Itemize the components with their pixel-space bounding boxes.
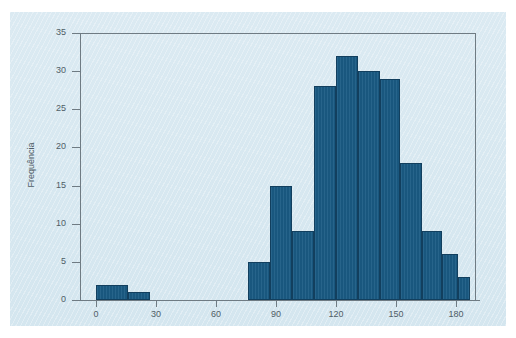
histogram-bar	[458, 277, 470, 300]
y-tick-label: 5	[26, 257, 66, 266]
y-tick-mark	[72, 300, 80, 301]
y-tick-mark	[72, 224, 80, 225]
histogram-bar	[128, 292, 150, 300]
histogram-bar	[400, 163, 422, 300]
y-tick-mark	[72, 262, 80, 263]
y-tick-label: 10	[26, 219, 66, 228]
x-axis-line	[76, 300, 480, 301]
x-tick-mark	[276, 301, 277, 307]
y-axis-title: Frequência	[26, 115, 36, 215]
histogram-bar	[380, 79, 400, 300]
x-tick-label: 30	[136, 310, 176, 319]
x-tick-mark	[96, 301, 97, 307]
chart-figure: Frequência 05101520253035 03060901201501…	[10, 12, 506, 326]
x-tick-mark	[396, 301, 397, 307]
x-tick-label: 90	[256, 310, 296, 319]
histogram-bar	[292, 231, 314, 300]
x-tick-label: 60	[196, 310, 236, 319]
x-tick-mark	[336, 301, 337, 307]
y-tick-label: 0	[26, 295, 66, 304]
y-tick-label: 15	[26, 181, 66, 190]
x-tick-label: 180	[436, 310, 476, 319]
histogram-bar	[248, 262, 270, 300]
x-tick-mark	[456, 301, 457, 307]
y-tick-label: 30	[26, 66, 66, 75]
x-tick-mark	[156, 301, 157, 307]
x-tick-label: 150	[376, 310, 416, 319]
y-tick-label: 35	[26, 28, 66, 37]
y-tick-mark	[72, 186, 80, 187]
histogram-bar	[442, 254, 458, 300]
x-tick-label: 0	[76, 310, 116, 319]
histogram-bar	[314, 86, 336, 300]
histogram-bar	[96, 285, 128, 300]
histogram-bar	[270, 186, 292, 300]
y-tick-mark	[72, 109, 80, 110]
x-tick-mark	[216, 301, 217, 307]
y-tick-mark	[72, 147, 80, 148]
x-tick-label: 120	[316, 310, 356, 319]
y-tick-label: 25	[26, 104, 66, 113]
histogram-bar	[336, 56, 358, 300]
y-tick-mark	[72, 71, 80, 72]
y-tick-mark	[72, 33, 80, 34]
y-tick-label: 20	[26, 142, 66, 151]
histogram-bar	[422, 231, 442, 300]
histogram-bar	[358, 71, 380, 300]
